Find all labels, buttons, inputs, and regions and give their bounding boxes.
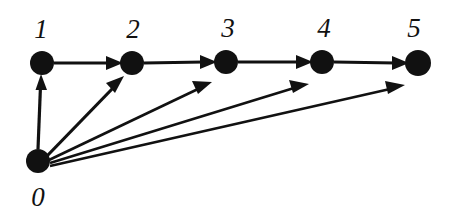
- graph-canvas: 0 1 2 3 4 5: [0, 0, 453, 221]
- node-4[interactable]: [310, 50, 334, 74]
- edge-2-to-3: [144, 55, 217, 69]
- arrowhead: [385, 81, 405, 94]
- node-layer: [26, 50, 431, 173]
- node-1[interactable]: [30, 51, 54, 75]
- edge-3-to-4: [238, 55, 313, 69]
- edge-0-to-4: [50, 80, 309, 163]
- node-5[interactable]: [405, 50, 431, 76]
- arrowhead: [192, 81, 212, 94]
- node-label-4: 4: [317, 13, 331, 43]
- edge-4-to-5: [334, 56, 409, 70]
- node-3[interactable]: [214, 50, 238, 74]
- edge-line: [144, 62, 204, 63]
- node-label-1: 1: [34, 14, 48, 44]
- edge-line: [50, 88, 294, 163]
- node-0[interactable]: [26, 149, 50, 173]
- edge-0-to-5: [50, 81, 405, 166]
- node-label-3: 3: [220, 13, 235, 43]
- arrowhead: [289, 80, 309, 93]
- edge-0-to-1: [36, 74, 48, 149]
- graph-diagram: 0 1 2 3 4 5: [0, 0, 453, 221]
- node-2[interactable]: [120, 51, 144, 75]
- node-label-0: 0: [31, 182, 45, 212]
- arrowhead: [36, 74, 48, 90]
- node-label-5: 5: [407, 13, 421, 43]
- edge-1-to-2: [54, 56, 123, 70]
- node-label-2: 2: [126, 14, 140, 44]
- edge-line: [334, 62, 396, 63]
- edge-line: [38, 86, 41, 149]
